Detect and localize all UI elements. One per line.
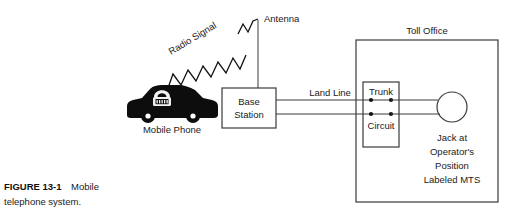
figure-caption-number: FIGURE 13-1	[4, 181, 62, 192]
trunk-terminal-dot-top-left	[369, 98, 373, 102]
jack-label-line3: Position	[435, 160, 469, 171]
figure-caption-line1: FIGURE 13-1 Mobile	[4, 176, 99, 193]
base-station-box	[222, 88, 276, 128]
radio-signal-label: Radio Signal	[166, 20, 218, 57]
jack-label-line4: Labeled MTS	[424, 174, 481, 185]
trunk-terminal-dot-bottom-left	[369, 112, 373, 116]
antenna-zigzag-icon	[238, 19, 258, 34]
jack-label-line1: Jack at	[437, 132, 467, 143]
diagram-canvas: Toll Office Base Station Antenna Radio S…	[0, 0, 518, 219]
car-silhouette-icon	[127, 85, 218, 123]
mobile-phone-label: Mobile Phone	[143, 124, 201, 135]
jack-circle	[437, 92, 467, 122]
land-line-label: Land Line	[309, 87, 351, 98]
base-station-label-line2: Station	[234, 109, 264, 120]
figure-mobile-telephone-system: Toll Office Base Station Antenna Radio S…	[0, 0, 518, 219]
radio-signal-zigzag	[168, 55, 246, 88]
figure-caption-line2: telephone system.	[4, 196, 81, 207]
circuit-label: Circuit	[368, 120, 395, 131]
trunk-label: Trunk	[369, 86, 393, 97]
jack-label-line2: Operator's	[430, 146, 474, 157]
antenna-label: Antenna	[264, 13, 300, 24]
figure-caption-text: Mobile	[71, 181, 99, 192]
base-station-label-line1: Base	[238, 96, 260, 107]
toll-office-label: Toll Office	[406, 25, 448, 36]
